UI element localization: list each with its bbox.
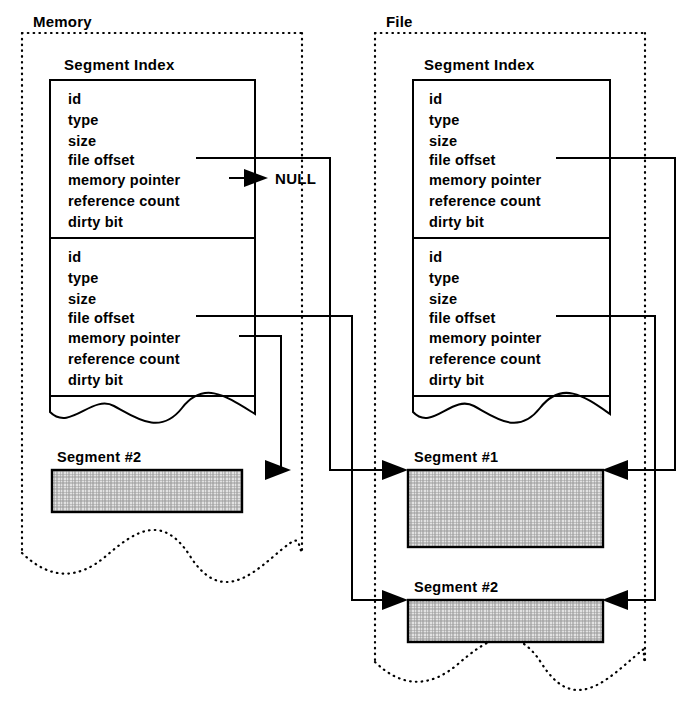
file-r2-field-id: id: [429, 249, 442, 265]
memory-r1-field-size: size: [68, 133, 96, 149]
memory-index-title: Segment Index: [64, 56, 175, 73]
file-r1-field-reference-count: reference count: [429, 193, 541, 209]
file-r2-field-reference-count: reference count: [429, 351, 541, 367]
file-r1-field-id: id: [429, 91, 442, 107]
memory-r2-field-memory-pointer: memory pointer: [68, 330, 181, 346]
file-r2-field-type: type: [429, 270, 460, 286]
memory-r1-field-reference-count: reference count: [68, 193, 180, 209]
file-r2-field-size: size: [429, 291, 457, 307]
memory-r2-field-type: type: [68, 270, 99, 286]
segment-index-diagram: NULL Memory Segment Index id type size: [0, 0, 697, 711]
memory-r1-field-memory-pointer: memory pointer: [68, 172, 181, 188]
memory-r2-field-id: id: [68, 249, 81, 265]
memory-r2-field-size: size: [68, 291, 96, 307]
file-r2-field-dirty-bit: dirty bit: [429, 372, 484, 388]
memory-panel-label: Memory: [33, 13, 92, 30]
memory-r1-field-dirty-bit: dirty bit: [68, 214, 123, 230]
file-segment-label-1: Segment #1: [414, 449, 498, 465]
file-segment-block-2: [408, 600, 603, 642]
memory-r1-field-id: id: [68, 91, 81, 107]
memory-r1-field-file-offset: file offset: [68, 152, 135, 168]
file-r1-field-dirty-bit: dirty bit: [429, 214, 484, 230]
diagram-canvas: NULL Memory Segment Index id type size: [0, 0, 697, 711]
file-r2-field-memory-pointer: memory pointer: [429, 330, 542, 346]
memory-r2-field-dirty-bit: dirty bit: [68, 372, 123, 388]
memory-r2-field-reference-count: reference count: [68, 351, 180, 367]
file-r1-field-memory-pointer: memory pointer: [429, 172, 542, 188]
memory-r1-field-type: type: [68, 112, 99, 128]
memory-index-continuation: [50, 393, 255, 423]
file-r1-field-file-offset: file offset: [429, 152, 496, 168]
file-r1-field-size: size: [429, 133, 457, 149]
file-panel-label: File: [386, 13, 413, 30]
file-segment-block-1: [408, 470, 603, 547]
null-label: NULL: [275, 170, 316, 187]
file-index-continuation: [413, 393, 610, 423]
file-r2-field-file-offset: file offset: [429, 310, 496, 326]
memory-r2-field-file-offset: file offset: [68, 310, 135, 326]
file-index-title: Segment Index: [424, 56, 535, 73]
memory-segment-label-1: Segment #2: [57, 449, 141, 465]
memory-segment-block-1: [52, 470, 242, 512]
file-r1-field-type: type: [429, 112, 460, 128]
file-segment-label-2: Segment #2: [414, 579, 498, 595]
